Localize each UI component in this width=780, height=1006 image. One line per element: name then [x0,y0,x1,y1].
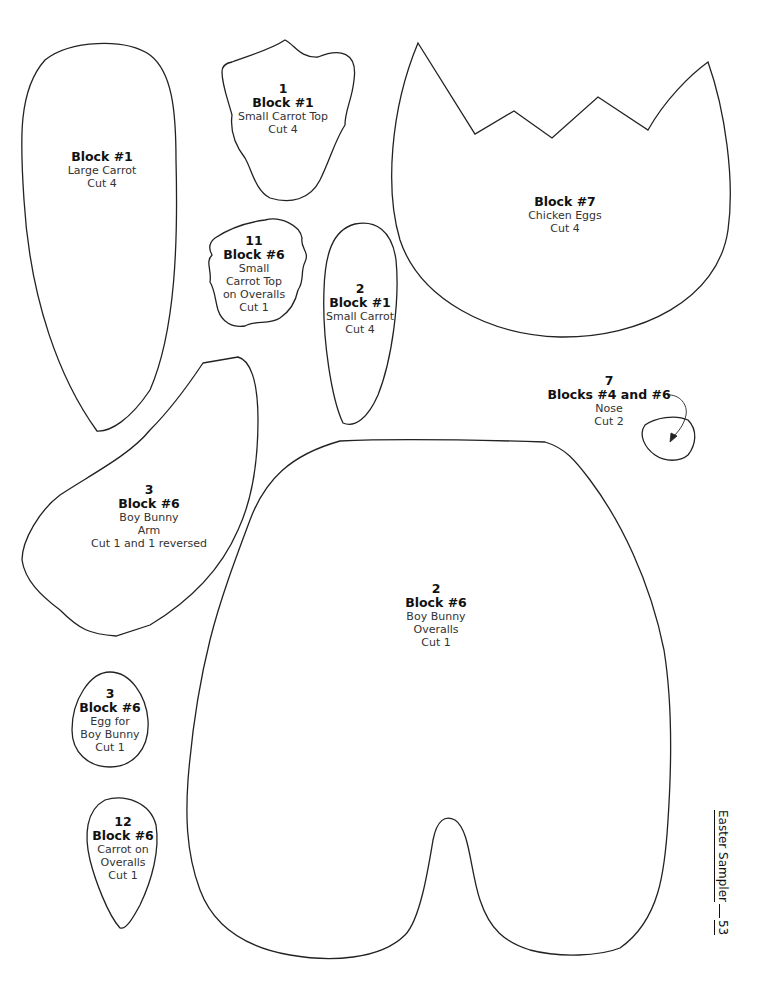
cut-count: Cut 4 [68,177,137,190]
block-label: Block #6 [91,497,207,511]
piece-number: 11 [223,234,285,248]
piece-name: Overalls [405,623,467,636]
piece-number: 2 [405,582,467,596]
piece-name: Nose [547,402,670,415]
nose-label: 7 Blocks #4 and #6 Nose Cut 2 [547,374,670,428]
piece-number: 12 [92,815,154,829]
block-label: Block #1 [326,296,394,310]
cut-count: Cut 1 [92,869,154,882]
small-carrot-top-label: 1 Block #1 Small Carrot Top Cut 4 [238,82,328,136]
cut-count: Cut 4 [326,323,394,336]
piece-name: Arm [91,524,207,537]
large-carrot-outline [22,44,177,432]
piece-name: Boy Bunny [79,728,141,741]
piece-name: Boy Bunny [405,610,467,623]
piece-name: Small Carrot [326,310,394,323]
chicken-eggs-label: Block #7 Chicken Eggs Cut 4 [528,195,602,235]
carrot-top-overalls-label: 11 Block #6 Small Carrot Top on Overalls… [223,234,285,314]
carrot-overalls-label: 12 Block #6 Carrot on Overalls Cut 1 [92,815,154,882]
block-label: Block #6 [405,596,467,610]
piece-name: Carrot on [92,843,154,856]
piece-number: 3 [79,687,141,701]
piece-name: Small Carrot Top [238,110,328,123]
piece-name: Chicken Eggs [528,209,602,222]
small-carrot-label: 2 Block #1 Small Carrot Cut 4 [326,282,394,336]
piece-name: Carrot Top [223,275,285,288]
block-label: Blocks #4 and #6 [547,388,670,402]
piece-number: 2 [326,282,394,296]
piece-number: 7 [547,374,670,388]
page-footer: Easter Sampler53 [716,810,730,935]
cut-count: Cut 2 [547,415,670,428]
block-label: Block #1 [238,96,328,110]
piece-number: 1 [238,82,328,96]
block-label: Block #6 [92,829,154,843]
piece-name: Large Carrot [68,164,137,177]
cut-count: Cut 4 [528,222,602,235]
overalls-outline [187,439,671,958]
footer-rule [719,904,721,918]
chicken-egg-outline [392,43,731,337]
page-number: 53 [714,920,730,935]
piece-name: Egg for [79,715,141,728]
piece-name: on Overalls [223,288,285,301]
cut-count: Cut 1 [405,636,467,649]
block-label: Block #6 [79,701,141,715]
cut-count: Cut 4 [238,123,328,136]
piece-name: Boy Bunny [91,511,207,524]
block-label: Block #1 [68,150,137,164]
arm-label: 3 Block #6 Boy Bunny Arm Cut 1 and 1 rev… [91,483,207,550]
cut-count: Cut 1 [223,301,285,314]
piece-name: Small [223,262,285,275]
large-carrot-label: Block #1 Large Carrot Cut 4 [68,150,137,190]
piece-name: Overalls [92,856,154,869]
overalls-label: 2 Block #6 Boy Bunny Overalls Cut 1 [405,582,467,649]
piece-number: 3 [91,483,207,497]
footer-title: Easter Sampler [714,810,730,902]
egg-label: 3 Block #6 Egg for Boy Bunny Cut 1 [79,687,141,754]
block-label: Block #7 [528,195,602,209]
block-label: Block #6 [223,248,285,262]
cut-count: Cut 1 [79,741,141,754]
cut-count: Cut 1 and 1 reversed [91,537,207,550]
